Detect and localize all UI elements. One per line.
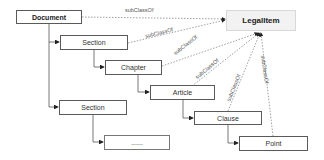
node-point: Point — [239, 136, 308, 151]
node-section-2: Section — [59, 100, 127, 115]
node-clause: Clause — [194, 111, 262, 125]
node-section: Section — [60, 35, 128, 50]
node-chapter: Chapter — [105, 60, 162, 75]
node-document: Document — [16, 10, 82, 24]
edge-label-document: subClassOf — [125, 7, 153, 13]
node-ellipsis: ...... — [104, 135, 170, 150]
node-article: Article — [150, 85, 215, 100]
node-legalitem: LegalItem — [226, 10, 296, 31]
